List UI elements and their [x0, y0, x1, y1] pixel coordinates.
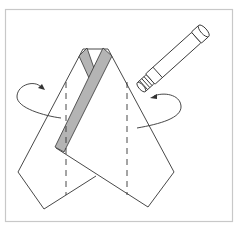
- fold-diagram: [0, 0, 240, 225]
- diagram-canvas: Paper folding instruction step: apply gl…: [0, 0, 240, 225]
